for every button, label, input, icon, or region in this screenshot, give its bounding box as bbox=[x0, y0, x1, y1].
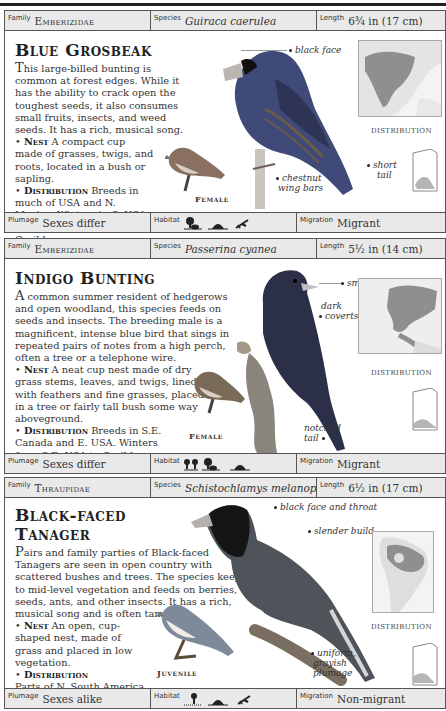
length-label: Length bbox=[320, 11, 344, 22]
book-silhouette-icon bbox=[411, 388, 439, 432]
length-value: 6½ in (17 cm) bbox=[348, 482, 422, 494]
species-cell: Species Passerina cyanea bbox=[151, 239, 317, 258]
family-cell: Family Emberizidae bbox=[5, 11, 151, 30]
distribution-caption: DISTRIBUTION bbox=[371, 127, 432, 135]
species-label: Species bbox=[154, 11, 181, 22]
habitat-icons bbox=[184, 216, 254, 230]
length-cell: Length 5½ in (14 cm) bbox=[317, 239, 445, 258]
habitat-icons bbox=[184, 457, 264, 471]
scrub-icon bbox=[208, 224, 228, 229]
distribution-map bbox=[372, 531, 434, 613]
plumage-cell: Plumage Sexes differ bbox=[5, 213, 151, 232]
distribution-map bbox=[358, 40, 442, 117]
distribution-label: Distribution bbox=[24, 185, 88, 196]
plumage-label: Plumage bbox=[8, 213, 38, 224]
length-cell: Length 6¾ in (17 cm) bbox=[317, 11, 445, 30]
inset-caption: Female bbox=[189, 431, 223, 441]
distribution-caption: DISTRIBUTION bbox=[371, 623, 432, 631]
family-label: Family bbox=[8, 11, 31, 22]
open-country-icon bbox=[238, 696, 250, 704]
migration-value: Migrant bbox=[337, 217, 380, 229]
species-value: Guiraca caerulea bbox=[185, 15, 276, 27]
nest-label: Nest bbox=[24, 136, 49, 147]
annotation-chestnut-wing-bars: chestnutwing bars bbox=[276, 173, 323, 193]
distribution-map bbox=[358, 278, 442, 354]
species-label: Species bbox=[154, 478, 181, 489]
annotation-notched-tail: notchedtail bbox=[304, 423, 341, 443]
plumage-value: Sexes differ bbox=[42, 217, 105, 229]
attributes-bar: Plumage Sexes differ Habitat Migration M… bbox=[4, 453, 446, 474]
species-label: Species bbox=[154, 239, 181, 250]
length-cell: Length 6½ in (17 cm) bbox=[317, 478, 445, 497]
migration-label: Migration bbox=[300, 454, 333, 465]
entry-body: Black-facedTanager Pairs and family part… bbox=[4, 498, 446, 688]
entry-body: Indigo Bunting A common summer resident … bbox=[4, 259, 446, 453]
length-label: Length bbox=[320, 239, 344, 250]
length-value: 5½ in (14 cm) bbox=[348, 243, 422, 255]
annotation-leader bbox=[241, 50, 287, 51]
habitat-icons bbox=[184, 692, 260, 706]
migration-value: Migrant bbox=[337, 458, 380, 470]
tree-grassland-icon bbox=[184, 693, 202, 705]
attributes-bar: Plumage Sexes alike Habitat Migration No… bbox=[4, 688, 446, 709]
nest-label: Nest bbox=[24, 620, 49, 631]
annotation-slender-build: slender build bbox=[308, 526, 374, 536]
forest-edge-icon bbox=[202, 458, 220, 471]
family-value: Emberizidae bbox=[35, 15, 95, 27]
migration-cell: Migration Non-migrant bbox=[297, 689, 445, 708]
species-title: Indigo Bunting bbox=[15, 269, 155, 288]
inset-female-illustration bbox=[191, 369, 247, 415]
inset-caption: Juvenile bbox=[157, 668, 197, 678]
species-title: Black-facedTanager bbox=[15, 506, 126, 544]
annotation-black-face: black face bbox=[289, 45, 341, 55]
taxonomy-bar: Family Thraupidae Species Schistochlamys… bbox=[4, 477, 446, 498]
entry-body: Blue Grosbeak This large-billed bunting … bbox=[4, 31, 446, 212]
migration-cell: Migration Migrant bbox=[297, 213, 445, 232]
habitat-label: Habitat bbox=[154, 213, 180, 224]
woodland-icon bbox=[184, 459, 198, 470]
family-label: Family bbox=[8, 239, 31, 250]
length-label: Length bbox=[320, 478, 344, 489]
plumage-label: Plumage bbox=[8, 454, 38, 465]
plumage-value: Sexes differ bbox=[42, 458, 105, 470]
inset-female-illustration bbox=[165, 143, 227, 193]
family-value: Emberizidae bbox=[35, 243, 95, 255]
habitat-cell: Habitat bbox=[151, 689, 297, 708]
nest-label: Nest bbox=[24, 364, 49, 375]
scrub-icon bbox=[208, 700, 228, 705]
taxonomy-bar: Family Emberizidae Species Passerina cya… bbox=[4, 238, 446, 259]
plumage-cell: Plumage Sexes differ bbox=[5, 454, 151, 473]
species-title: Blue Grosbeak bbox=[15, 41, 152, 60]
family-cell: Family Thraupidae bbox=[5, 478, 151, 497]
inset-juvenile-illustration bbox=[156, 602, 236, 662]
length-value: 6¾ in (17 cm) bbox=[348, 15, 422, 27]
scrub-icon bbox=[230, 465, 250, 470]
annotation-uniform-grayish-plumage: uniform,grayishplumage bbox=[311, 648, 356, 678]
species-cell: Species Guiraca caerulea bbox=[151, 11, 317, 30]
taxonomy-bar: Family Emberizidae Species Guiraca caeru… bbox=[4, 10, 446, 31]
migration-cell: Migration Migrant bbox=[297, 454, 445, 473]
book-silhouette-icon bbox=[411, 643, 439, 687]
open-country-icon bbox=[236, 220, 248, 228]
family-cell: Family Emberizidae bbox=[5, 239, 151, 258]
plumage-label: Plumage bbox=[8, 689, 38, 700]
habitat-label: Habitat bbox=[154, 454, 180, 465]
species-cell: Species Schistochlamys melanopis bbox=[151, 478, 317, 497]
species-value: Passerina cyanea bbox=[185, 243, 277, 255]
migration-label: Migration bbox=[300, 213, 333, 224]
plumage-value: Sexes alike bbox=[42, 693, 102, 705]
page-header-rule bbox=[0, 0, 446, 6]
attributes-bar: Plumage Sexes differ Habitat Migration M… bbox=[4, 212, 446, 233]
distribution-label: Distribution bbox=[24, 669, 88, 680]
distribution-label: Distribution bbox=[24, 425, 88, 436]
migration-value: Non-migrant bbox=[337, 693, 405, 705]
book-silhouette-icon bbox=[411, 149, 439, 193]
annotation-black-face-and-throat: black face and throat bbox=[274, 502, 377, 512]
habitat-cell: Habitat bbox=[151, 454, 297, 473]
forest-edge-icon bbox=[184, 217, 202, 230]
habitat-cell: Habitat bbox=[151, 213, 297, 232]
family-label: Family bbox=[8, 478, 31, 489]
plumage-cell: Plumage Sexes alike bbox=[5, 689, 151, 708]
habitat-label: Habitat bbox=[154, 689, 180, 700]
migration-label: Migration bbox=[300, 689, 333, 700]
